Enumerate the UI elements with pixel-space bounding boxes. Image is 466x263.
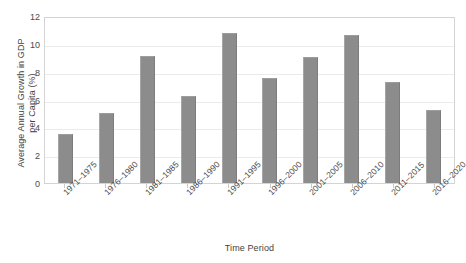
bar[interactable] <box>344 35 359 183</box>
bar-slot <box>86 18 127 183</box>
bar[interactable] <box>222 33 237 183</box>
bar[interactable] <box>262 78 277 183</box>
x-label-slot: 1996–2000 <box>249 188 290 236</box>
bar-slot <box>127 18 168 183</box>
bar-series <box>45 18 454 183</box>
bar[interactable] <box>140 56 155 183</box>
x-label-slot: 1991–1995 <box>208 188 249 236</box>
y-axis-tick-label: 12 <box>18 12 40 22</box>
x-label-slot: 2006–2010 <box>332 188 373 236</box>
x-label-slot: 2001–2005 <box>291 188 332 236</box>
bar[interactable] <box>58 134 73 183</box>
x-label-slot: 1986–1990 <box>167 188 208 236</box>
x-label-slot: 2011–2015 <box>373 188 414 236</box>
plot-area <box>44 17 455 184</box>
y-axis-tick-label: 0 <box>18 179 40 189</box>
bar-chart-figure: Average Annual Growth in GDP per Capita … <box>0 0 466 263</box>
bar-slot <box>413 18 454 183</box>
bar[interactable] <box>426 110 441 183</box>
bar[interactable] <box>303 57 318 183</box>
bar[interactable] <box>181 96 196 183</box>
x-axis-title: Time Period <box>44 243 455 253</box>
y-axis-tick-label: 10 <box>18 40 40 50</box>
x-axis-tick-labels: 1971–19751976–19801981–19851986–19901991… <box>44 188 455 236</box>
bar-slot <box>209 18 250 183</box>
y-axis-tick-label: 6 <box>18 96 40 106</box>
x-label-slot: 2016–2020 <box>414 188 455 236</box>
bar[interactable] <box>99 113 114 183</box>
y-axis-tick-label: 4 <box>18 123 40 133</box>
bar-slot <box>45 18 86 183</box>
bar-slot <box>168 18 209 183</box>
y-axis-tick-label: 8 <box>18 68 40 78</box>
x-label-slot: 1976–1980 <box>85 188 126 236</box>
y-axis-tick-labels: 024681012 <box>16 0 40 263</box>
x-label-slot: 1971–1975 <box>44 188 85 236</box>
bar[interactable] <box>385 82 400 183</box>
y-axis-tick-label: 2 <box>18 151 40 161</box>
x-label-slot: 1981–1985 <box>126 188 167 236</box>
